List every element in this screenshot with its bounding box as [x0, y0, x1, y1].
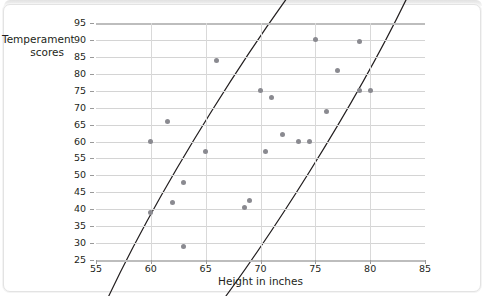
y-tick-label: 85	[62, 52, 86, 62]
y-tick-mark	[90, 226, 94, 227]
x-tick-label: 80	[355, 263, 385, 274]
y-tick-label: 80	[62, 69, 86, 79]
y-tick-mark	[90, 23, 94, 24]
y-tick-mark	[90, 57, 94, 58]
x-tick-mark	[261, 260, 262, 264]
plot-area	[96, 23, 425, 260]
data-point	[181, 180, 186, 185]
y-tick-label: 55	[62, 153, 86, 163]
x-tick-label: 60	[136, 263, 166, 274]
data-point	[165, 119, 170, 124]
x-tick-mark	[425, 260, 426, 264]
data-point	[357, 39, 362, 44]
y-tick-label: 40	[62, 204, 86, 214]
x-tick-mark	[96, 260, 97, 264]
y-tick-label: 95	[62, 18, 86, 28]
x-tick-label: 55	[81, 263, 111, 274]
data-point	[242, 205, 247, 210]
x-tick-label: 70	[246, 263, 276, 274]
y-tick-label: 75	[62, 86, 86, 96]
y-tick-label: 30	[62, 238, 86, 248]
chart-figure: Temperament scores Height in inches 2530…	[0, 0, 486, 296]
x-axis-title: Height in inches	[96, 275, 425, 287]
data-point	[357, 88, 362, 93]
y-tick-mark	[90, 91, 94, 92]
x-gridline	[261, 23, 262, 260]
y-tick-mark	[90, 243, 94, 244]
data-point	[368, 88, 373, 93]
y-tick-mark	[90, 108, 94, 109]
x-tick-mark	[370, 260, 371, 264]
y-tick-mark	[90, 209, 94, 210]
x-tick-mark	[315, 260, 316, 264]
y-tick-label: 90	[62, 35, 86, 45]
x-tick-mark	[206, 260, 207, 264]
y-tick-mark	[90, 125, 94, 126]
y-tick-mark	[90, 142, 94, 143]
data-point	[214, 58, 219, 63]
y-tick-label: 70	[62, 103, 86, 113]
y-tick-label: 50	[62, 170, 86, 180]
x-gridline	[370, 23, 371, 260]
x-tick-mark	[151, 260, 152, 264]
y-tick-mark	[90, 192, 94, 193]
y-tick-mark	[90, 40, 94, 41]
x-tick-label: 85	[410, 263, 440, 274]
x-gridline	[206, 23, 207, 260]
y-tick-label: 45	[62, 187, 86, 197]
y-tick-label: 35	[62, 221, 86, 231]
data-point	[324, 109, 329, 114]
y-tick-label: 65	[62, 120, 86, 130]
y-axis-title: Temperament scores	[2, 33, 64, 59]
y-tick-mark	[90, 260, 94, 261]
y-tick-mark	[90, 175, 94, 176]
y-tick-mark	[90, 74, 94, 75]
x-tick-label: 65	[191, 263, 221, 274]
x-tick-label: 75	[300, 263, 330, 274]
y-tick-mark	[90, 158, 94, 159]
data-point	[269, 95, 274, 100]
data-point	[335, 68, 340, 73]
y-tick-label: 60	[62, 137, 86, 147]
x-gridline	[315, 23, 316, 260]
